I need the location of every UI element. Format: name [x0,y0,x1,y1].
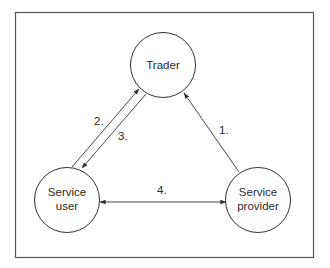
node-trader-label: Trader [146,59,180,71]
node-service-user: Service user [35,168,100,233]
arrow-icon [72,89,139,167]
node-trader: Trader [131,33,196,98]
node-service-user-label-line2: user [56,200,79,212]
arrow-icon [82,94,146,168]
edge-3: 3. [82,94,146,168]
edge-4-label: 4. [157,184,167,196]
node-service-provider-label-line1: Service [239,186,277,198]
edge-1: 1. [184,93,239,172]
node-service-user-label-line1: Service [48,186,86,198]
node-service-provider-label-line2: provider [237,200,279,212]
arrow-icon [184,93,239,172]
edge-1-label: 1. [219,124,229,136]
edge-4: 4. [100,184,226,202]
trade-flow-diagram: Trader Service user Service provider 1. … [0,0,330,268]
edge-2: 2. [72,89,139,167]
edge-2-label: 2. [94,115,104,127]
edge-3-label: 3. [118,130,128,142]
node-service-provider: Service provider [226,168,291,233]
